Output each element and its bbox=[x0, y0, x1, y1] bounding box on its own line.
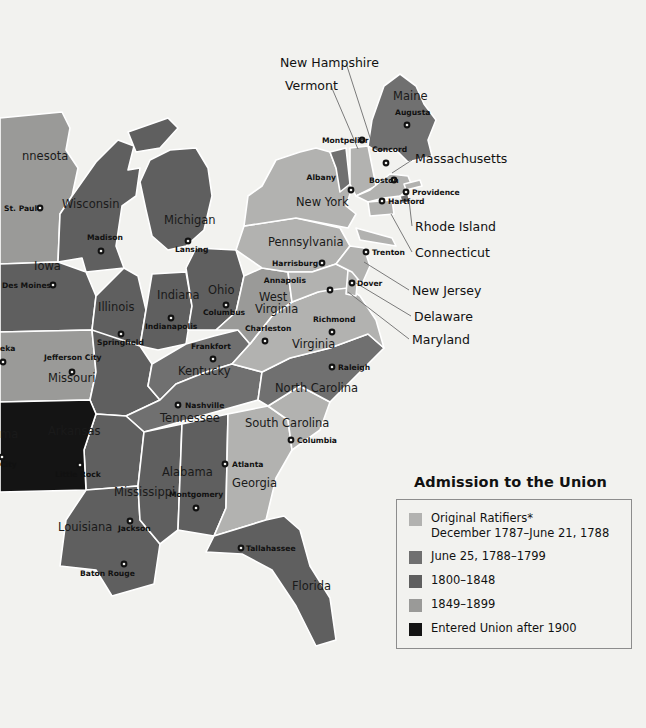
callout-label-connecticut: Connecticut bbox=[415, 245, 490, 260]
callout-label-maryland: Maryland bbox=[412, 332, 470, 347]
state-label-indiana: Indiana bbox=[157, 288, 200, 302]
legend-row-1800-1848[interactable]: 1800–1848 bbox=[409, 573, 621, 588]
legend-row-1849-1899[interactable]: 1849–1899 bbox=[409, 597, 621, 612]
callout-label-rhode-island: Rhode Island bbox=[415, 219, 496, 234]
legend-label-june-1788-1799: June 25, 1788–1799 bbox=[431, 549, 546, 564]
city-dot-center bbox=[290, 439, 293, 442]
city-label-annapolis: Annapolis bbox=[264, 276, 307, 285]
legend-swatch-after-1900 bbox=[409, 623, 422, 636]
city-label-albany: Albany bbox=[307, 173, 336, 182]
state-shape-indiana[interactable] bbox=[140, 272, 192, 350]
state-label-illinois: Illinois bbox=[98, 300, 135, 314]
city-dot-center bbox=[123, 563, 126, 566]
legend-label-line1: 1800–1848 bbox=[431, 573, 495, 587]
city-dot-center bbox=[331, 366, 334, 369]
city-dot-center bbox=[120, 333, 123, 336]
callout-label-massachusetts: Massachusetts bbox=[415, 151, 507, 166]
leader-line-massachusetts bbox=[392, 160, 412, 173]
state-shape-kansas[interactable] bbox=[0, 330, 96, 402]
city-label-tallahassee: Tallahassee bbox=[246, 544, 296, 553]
city-label-frankfort: Frankfort bbox=[191, 342, 231, 351]
city-label-columbia: Columbia bbox=[297, 436, 337, 445]
state-label-arkansas: Arkansas bbox=[48, 424, 100, 438]
city-dot-center bbox=[129, 520, 132, 523]
legend-row-after-1900[interactable]: Entered Union after 1900 bbox=[409, 621, 621, 636]
city-label-jefferson-city: Jefferson City bbox=[43, 353, 102, 362]
state-label-alabama: Alabama bbox=[162, 465, 213, 479]
city-label-concord: Concord bbox=[372, 145, 407, 154]
state-label-west-virginia2: Virginia bbox=[255, 302, 298, 316]
city-label-topeka: eka bbox=[0, 344, 15, 353]
state-label-mississippi: Mississippi bbox=[114, 485, 175, 499]
city-dot-center bbox=[177, 404, 180, 407]
city-label-charleston: Charleston bbox=[245, 324, 291, 333]
legend-swatch-1849-1899 bbox=[409, 599, 422, 612]
city-label-montpelier: Montpelier bbox=[322, 136, 369, 145]
callout-label-new-jersey: New Jersey bbox=[412, 283, 482, 298]
city-label-lansing: Lansing bbox=[175, 245, 208, 254]
city-dot-center bbox=[100, 250, 103, 253]
state-label-minnesota: nnesota bbox=[22, 149, 68, 163]
city-label-harrisburg: Harrisburg bbox=[272, 259, 318, 268]
callout-label-delaware: Delaware bbox=[414, 309, 473, 324]
city-label-baton-rouge: Baton Rouge bbox=[80, 569, 135, 578]
callout-label-vermont: Vermont bbox=[285, 78, 338, 93]
state-label-michigan: Michigan bbox=[164, 213, 216, 227]
state-label-georgia: Georgia bbox=[232, 476, 277, 490]
city-label-des-moines: Des Moines bbox=[2, 281, 52, 290]
state-label-missouri: Missouri bbox=[48, 371, 95, 385]
city-label-dover: Dover bbox=[357, 279, 383, 288]
legend-label-1800-1848: 1800–1848 bbox=[431, 573, 495, 588]
city-label-boston: Boston bbox=[369, 176, 399, 185]
legend-label-1849-1899: 1849–1899 bbox=[431, 597, 495, 612]
city-dot-center bbox=[39, 207, 42, 210]
city-label-jackson: Jackson bbox=[117, 524, 151, 533]
city-label-oklahoma-city: City bbox=[0, 460, 17, 469]
map-screenshot: nnesotaWisconsinMichiganIowaIllinoisIndi… bbox=[0, 0, 646, 728]
state-label-south-carolina: South Carolina bbox=[245, 416, 329, 430]
legend-row-original-ratifiers[interactable]: Original Ratifiers*December 1787–June 21… bbox=[409, 511, 621, 540]
state-label-north-carolina: North Carolina bbox=[275, 381, 358, 395]
city-dot-center bbox=[385, 162, 388, 165]
city-label-madison: Madison bbox=[87, 233, 123, 242]
legend-label-line1: 1849–1899 bbox=[431, 597, 495, 611]
city-dot-center bbox=[1, 456, 4, 459]
city-dot-center bbox=[350, 189, 353, 192]
city-dot-center bbox=[321, 262, 324, 265]
city-dot-center bbox=[381, 200, 384, 203]
legend-swatch-1800-1848 bbox=[409, 575, 422, 588]
legend-label-after-1900: Entered Union after 1900 bbox=[431, 621, 577, 636]
city-dot-center bbox=[170, 317, 173, 320]
city-dot-center bbox=[79, 464, 82, 467]
callout-label-new-hampshire: New Hampshire bbox=[280, 55, 379, 70]
state-shape-michigan[interactable] bbox=[128, 118, 212, 250]
state-label-tennessee: Tennessee bbox=[159, 411, 220, 425]
city-dot-center bbox=[52, 284, 55, 287]
legend-label-line1: Entered Union after 1900 bbox=[431, 621, 577, 635]
legend-box: Original Ratifiers*December 1787–June 21… bbox=[396, 499, 632, 649]
legend: Admission to the Union Original Ratifier… bbox=[396, 474, 644, 649]
legend-row-june-1788-1799[interactable]: June 25, 1788–1799 bbox=[409, 549, 621, 564]
legend-label-line1: Original Ratifiers* bbox=[431, 511, 533, 525]
city-label-little-rock: Little Rock bbox=[55, 470, 102, 479]
state-label-florida: Florida bbox=[292, 579, 331, 593]
state-label-virginia: Virginia bbox=[292, 337, 335, 351]
legend-label-original-ratifiers: Original Ratifiers*December 1787–June 21… bbox=[431, 511, 609, 540]
city-label-montgomery: Montgomery bbox=[169, 490, 223, 499]
city-dot-center bbox=[351, 282, 354, 285]
city-dot-center bbox=[225, 304, 228, 307]
city-dot-center bbox=[365, 251, 368, 254]
city-dot-center bbox=[224, 463, 227, 466]
city-label-trenton: Trenton bbox=[372, 248, 405, 257]
legend-swatch-original-ratifiers bbox=[409, 513, 422, 526]
state-label-kentucky: Kentucky bbox=[178, 364, 231, 378]
city-dot-center bbox=[2, 361, 5, 364]
state-label-iowa: Iowa bbox=[34, 259, 61, 273]
state-shape-longisland[interactable] bbox=[356, 228, 396, 246]
city-dot-center bbox=[187, 240, 190, 243]
city-label-columbus: Columbus bbox=[203, 308, 246, 317]
legend-swatch-june-1788-1799 bbox=[409, 551, 422, 564]
city-dot-center bbox=[212, 358, 215, 361]
state-label-wisconsin: Wisconsin bbox=[62, 197, 119, 211]
city-label-augusta: Augusta bbox=[395, 108, 430, 117]
